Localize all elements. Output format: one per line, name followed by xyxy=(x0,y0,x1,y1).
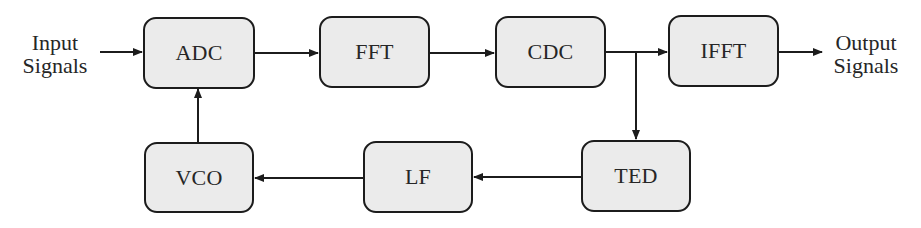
lf-block: LF xyxy=(363,141,473,213)
adc-label: ADC xyxy=(175,40,222,66)
input-label-line1: Input xyxy=(14,31,96,54)
adc-block: ADC xyxy=(143,17,255,89)
ifft-block: IFFT xyxy=(668,15,779,87)
vco-label: VCO xyxy=(175,165,222,191)
input-signals-label: Input Signals xyxy=(14,31,96,77)
fft-block: FFT xyxy=(319,16,430,88)
output-label-line2: Signals xyxy=(828,54,904,77)
vco-block: VCO xyxy=(144,142,254,213)
ifft-label: IFFT xyxy=(700,38,746,64)
ted-block: TED xyxy=(581,140,691,212)
output-label-line1: Output xyxy=(828,31,904,54)
ted-label: TED xyxy=(614,163,657,189)
cdc-block: CDC xyxy=(495,16,606,88)
signal-processing-block-diagram: Input Signals Output Signals ADC FFT CDC… xyxy=(0,0,921,228)
cdc-label: CDC xyxy=(528,39,574,65)
fft-label: FFT xyxy=(355,39,394,65)
input-label-line2: Signals xyxy=(14,54,96,77)
output-signals-label: Output Signals xyxy=(828,31,904,77)
lf-label: LF xyxy=(405,164,431,190)
